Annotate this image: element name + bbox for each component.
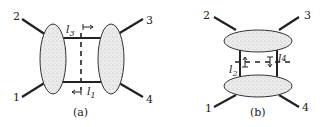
arrow-right-icon [83, 24, 93, 30]
blob-left [40, 24, 66, 94]
leg-4 [119, 83, 143, 97]
blob-top [224, 30, 292, 52]
leg-1 [22, 82, 46, 97]
diagram-canvas: l3 l1 2 1 3 4 (a) [0, 0, 325, 127]
leg-1 [214, 95, 236, 107]
leg-label-2: 2 [203, 9, 210, 22]
leg-label-1: 1 [205, 102, 212, 115]
leg-label-3: 3 [146, 14, 153, 27]
label-l1: l1 [87, 85, 96, 100]
caption-b: (b) [250, 106, 266, 119]
arrow-left-icon [72, 89, 81, 95]
leg-2 [22, 19, 46, 35]
label-l3: l3 [66, 23, 75, 38]
leg-label-4: 4 [302, 101, 309, 114]
blob-bottom [224, 75, 292, 97]
label-l2: l2 [229, 63, 238, 78]
caption-a: (a) [73, 106, 88, 119]
leg-3 [118, 19, 143, 34]
label-l4: l4 [278, 52, 287, 65]
leg-label-4: 4 [146, 93, 153, 106]
leg-label-1: 1 [13, 91, 20, 104]
panel-a: l3 l1 2 1 3 4 (a) [13, 10, 153, 119]
leg-label-2: 2 [13, 10, 20, 23]
leg-label-3: 3 [304, 9, 311, 22]
leg-2 [214, 17, 236, 30]
leg-3 [279, 17, 299, 30]
leg-4 [279, 95, 299, 107]
blob-right [98, 24, 124, 94]
panel-b: l2 l4 2 3 1 4 (b) [203, 9, 311, 119]
